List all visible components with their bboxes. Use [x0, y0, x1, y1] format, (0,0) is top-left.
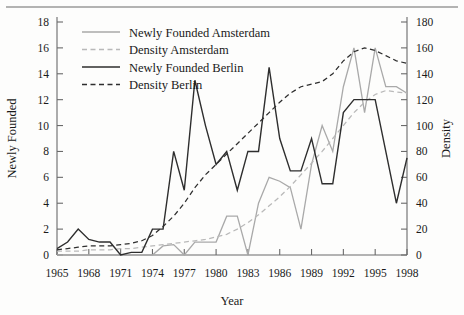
- y-right-tick-label: 60: [416, 171, 428, 183]
- x-tick-label: 1995: [364, 267, 387, 279]
- y-left-tick-label: 10: [38, 120, 50, 132]
- x-axis-title: Year: [220, 294, 244, 308]
- y-right-tick-label: 80: [416, 145, 428, 157]
- y-left-tick-label: 0: [43, 249, 49, 261]
- y-left-tick-label: 16: [38, 42, 50, 54]
- series-path-density-berlin: [57, 48, 407, 250]
- legend-label-density-berlin: Density Berlin: [129, 78, 203, 92]
- legend-label-newly-founded-berlin: Newly Founded Berlin: [129, 61, 244, 75]
- y-left-tick-label: 12: [38, 94, 50, 106]
- x-tick-label: 1998: [396, 267, 419, 279]
- y-right-tick-label: 180: [416, 16, 434, 28]
- chart-legend: Newly Founded AmsterdamDensity Amsterdam…: [82, 26, 270, 93]
- y-right-tick-label: 0: [416, 249, 422, 261]
- x-tick-label: 1983: [236, 267, 259, 279]
- x-tick-label: 1971: [109, 267, 132, 279]
- chart-canvas: 0246810121416180204060801001201401601801…: [0, 0, 464, 315]
- y-right-tick-label: 160: [416, 42, 434, 54]
- legend-label-newly-founded-amsterdam: Newly Founded Amsterdam: [129, 26, 270, 40]
- y-left-tick-label: 6: [43, 171, 49, 183]
- y-left-tick-label: 2: [43, 223, 49, 235]
- y-left-tick-label: 8: [43, 145, 49, 157]
- y-right-tick-label: 140: [416, 68, 434, 80]
- y-left-tick-label: 14: [38, 68, 50, 80]
- y-right-tick-label: 120: [416, 94, 434, 106]
- legend-label-density-amsterdam: Density Amsterdam: [129, 43, 229, 57]
- y-right-tick-label: 40: [416, 197, 428, 209]
- y-axis-left-title: Newly Founded: [5, 98, 19, 179]
- x-tick-label: 1986: [268, 267, 291, 279]
- y-right-tick-label: 100: [416, 120, 434, 132]
- x-tick-label: 1980: [205, 267, 228, 279]
- x-tick-label: 1992: [332, 267, 355, 279]
- chart-series: [57, 48, 407, 255]
- y-left-tick-label: 18: [38, 16, 50, 28]
- x-tick-label: 1974: [141, 267, 164, 279]
- series-path-newly-founded-amsterdam: [57, 48, 407, 255]
- x-tick-label: 1977: [173, 267, 196, 279]
- y-axis-right-title: Density: [439, 118, 453, 158]
- x-tick-label: 1965: [46, 267, 69, 279]
- y-right-tick-label: 20: [416, 223, 428, 235]
- chart-figure: 0246810121416180204060801001201401601801…: [0, 0, 464, 315]
- y-left-tick-label: 4: [43, 197, 49, 209]
- series-path-newly-founded-berlin: [57, 67, 407, 255]
- x-tick-label: 1968: [77, 267, 100, 279]
- x-tick-label: 1989: [300, 267, 323, 279]
